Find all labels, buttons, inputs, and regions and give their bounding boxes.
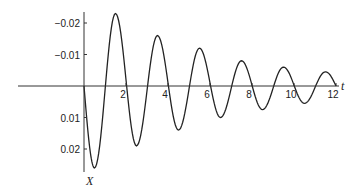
y-tick-label: 0.01 (61, 113, 81, 124)
damped-oscillation-chart: 24681012−0.02−0.010.010.02 t X (0, 0, 357, 195)
x-tick-label: 4 (162, 89, 168, 100)
y-tick-label: 0.02 (61, 144, 81, 155)
x-tick-label: 8 (246, 89, 252, 100)
y-tick-label: −0.01 (55, 50, 81, 61)
x-tick-label: 6 (204, 89, 210, 100)
x-tick-label: 10 (285, 89, 297, 100)
x-tick-label: 12 (327, 89, 339, 100)
x-axis-label: t (341, 79, 345, 93)
x-tick-label: 2 (120, 89, 126, 100)
y-axis-label: X (85, 174, 94, 188)
y-tick-label: −0.02 (55, 18, 81, 29)
